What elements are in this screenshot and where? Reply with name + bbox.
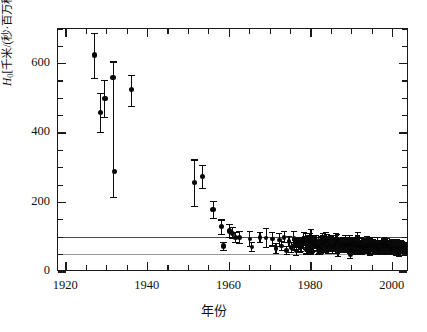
x-major-tick-2000-bottom <box>392 262 393 270</box>
y-major-tick-200-left <box>58 202 66 203</box>
error-bar-cap-upper <box>303 233 308 234</box>
error-bar-cap-upper <box>257 232 263 233</box>
error-bar-cap-lower <box>329 251 334 252</box>
error-bar-cap-lower <box>347 258 353 259</box>
y-minor-tick-250-left <box>58 185 63 186</box>
data-marker <box>270 237 275 242</box>
data-marker <box>112 169 117 174</box>
error-bar-cap-lower <box>236 243 243 244</box>
x-minor-tick-1990-top <box>351 29 352 34</box>
error-bar-cap-lower <box>101 117 108 118</box>
error-bar-cap-lower <box>382 248 387 249</box>
y-minor-tick-150-right <box>402 219 407 220</box>
x-major-tick-1940-bottom <box>147 262 148 270</box>
y-minor-tick-100-left <box>58 237 63 238</box>
y-major-tick-400-right <box>399 132 407 133</box>
error-bar-cap-lower <box>257 242 263 243</box>
data-marker <box>356 243 360 247</box>
error-bar-cap-lower <box>338 251 343 252</box>
error-bar-cap-upper <box>345 237 350 238</box>
error-bar-cap-upper <box>335 234 340 235</box>
x-major-tick-1940-top <box>147 29 148 37</box>
y-axis-title-subscript: 0 <box>5 73 15 77</box>
error-bar-cap-lower <box>395 254 400 255</box>
x-major-tick-1980-top <box>310 29 311 37</box>
error-bar-cap-upper <box>340 240 345 241</box>
x-minor-tick-1995-top <box>372 29 373 34</box>
plot-frame <box>57 28 408 271</box>
error-bar-cap-upper <box>276 233 282 234</box>
x-major-tick-1920-bottom <box>65 262 66 270</box>
error-bar-cap-upper <box>101 80 108 81</box>
y-minor-tick-300-left <box>58 167 63 168</box>
data-marker <box>129 87 134 92</box>
error-bar-cap-upper <box>249 242 255 243</box>
y-minor-tick-700-left <box>58 28 63 29</box>
x-minor-tick-1965-bottom <box>249 265 250 270</box>
data-marker <box>221 243 226 248</box>
error-bar-cap-upper <box>401 242 406 243</box>
data-marker <box>390 247 394 251</box>
error-bar-cap-lower <box>363 252 368 253</box>
error-bar-cap-lower <box>321 247 326 248</box>
error-bar-cap-lower <box>311 250 316 251</box>
y-major-tick-0-left <box>58 271 66 272</box>
error-bar-cap-upper <box>377 245 382 246</box>
y-minor-tick-700-right <box>402 28 407 29</box>
error-bar-cap-lower <box>360 254 365 255</box>
x-minor-tick-1950-top <box>188 29 189 34</box>
x-minor-tick-1990-bottom <box>351 265 352 270</box>
error-bar-cap-upper <box>308 229 314 230</box>
y-minor-tick-300-right <box>402 167 407 168</box>
data-marker <box>366 243 370 247</box>
error-bar-cap-upper <box>321 236 326 237</box>
error-bar-cap-upper <box>236 231 243 232</box>
error-bar-cap-lower <box>97 132 104 133</box>
error-bar-cap-upper <box>382 237 387 238</box>
error-bar-cap-lower <box>377 254 382 255</box>
y-minor-tick-150-left <box>58 219 63 220</box>
error-bar-cap-lower <box>199 188 206 189</box>
error-bar-cap-lower <box>292 244 297 245</box>
y-minor-tick-500-right <box>402 98 407 99</box>
error-bar-cap-lower <box>91 78 98 79</box>
error-bar-cap-lower <box>382 251 387 252</box>
data-marker <box>248 237 253 242</box>
x-minor-tick-1930-bottom <box>106 265 107 270</box>
error-bar-cap-upper <box>91 33 98 34</box>
y-tick-label-400: 400 <box>8 124 50 139</box>
y-minor-tick-350-left <box>58 150 63 151</box>
y-axis-title: H0[千米/(秒·百万秒差距)] <box>0 0 15 86</box>
data-marker <box>192 180 197 185</box>
error-bar-cap-upper <box>291 231 297 232</box>
error-bar-cap-lower <box>366 250 371 251</box>
error-bar-cap-upper <box>355 238 360 239</box>
y-axis-title-symbol: H <box>1 78 13 86</box>
data-marker <box>110 75 115 80</box>
y-major-tick-400-left <box>58 132 66 133</box>
error-bar-cap-upper <box>320 233 325 234</box>
y-minor-tick-450-right <box>402 115 407 116</box>
error-bar-cap-lower <box>210 218 217 219</box>
x-tick-label-2000: 2000 <box>362 278 422 293</box>
y-minor-tick-50-left <box>58 254 63 255</box>
data-marker <box>237 235 242 240</box>
error-bar-cap-upper <box>370 237 375 238</box>
data-marker <box>341 242 345 246</box>
error-bar-cap-lower <box>110 197 117 198</box>
error-bar-cap-upper <box>97 93 104 94</box>
error-bar-cap-upper <box>263 228 269 229</box>
error-bar-cap-upper <box>374 237 380 238</box>
error-bar-cap-upper <box>347 235 352 236</box>
error-bar-cap-upper <box>191 159 198 160</box>
error-bar-cap-lower <box>191 206 198 207</box>
x-minor-tick-1965-top <box>249 29 250 34</box>
data-marker <box>98 110 103 115</box>
plot-canvas <box>58 29 407 270</box>
error-bar-cap-lower <box>333 253 338 254</box>
x-minor-tick-1935-bottom <box>127 265 128 270</box>
y-minor-tick-550-left <box>58 80 63 81</box>
error-bar-line <box>113 62 114 197</box>
error-bar-cap-upper <box>311 237 316 238</box>
hubble-constant-chart: H0[千米/(秒·百万秒差距)] 年份 02004006001920194019… <box>0 0 427 332</box>
